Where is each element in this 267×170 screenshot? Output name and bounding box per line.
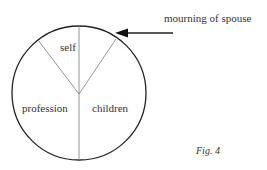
annotation-mourning-of-spouse: mourning of spouse	[164, 12, 252, 24]
figure-caption: Fig. 4	[195, 145, 220, 156]
segment-label-profession: profession	[22, 102, 68, 114]
segment-label-children: children	[92, 102, 129, 114]
segment-label-self: self	[60, 41, 76, 53]
right-divider	[79, 39, 116, 94]
arrow-head-icon	[115, 29, 128, 38]
diagram-canvas: self profession children mourning of spo…	[0, 0, 267, 170]
